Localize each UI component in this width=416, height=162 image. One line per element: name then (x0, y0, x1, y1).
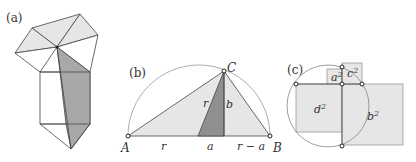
point-bottom (340, 144, 344, 148)
point-center (340, 82, 344, 86)
triangle-abc (128, 71, 270, 136)
point-a (126, 134, 130, 138)
label-A: A (120, 141, 130, 155)
pythagorean-diagram: (a) (b) A B C r r b (0, 0, 416, 162)
label-r-slant: r (203, 97, 209, 110)
label-b: b (226, 98, 233, 111)
label-r-base: r (161, 140, 167, 153)
hub-point (56, 46, 59, 49)
panel-b-label: (b) (129, 66, 146, 80)
panel-c: (c) a2 c2 d2 b2 (287, 63, 403, 148)
panel-a: (a) (6, 11, 98, 149)
point-c (222, 69, 226, 73)
label-B: B (272, 141, 282, 155)
label-a: a (207, 140, 214, 153)
point-b (268, 134, 272, 138)
point-top (340, 65, 344, 69)
label-r-minus-a: r − a (237, 140, 265, 153)
point-left (294, 82, 298, 86)
point-right (360, 82, 364, 86)
panel-b: (b) A B C r r b a r − a (120, 61, 282, 155)
panel-a-label: (a) (6, 11, 23, 25)
label-C: C (227, 61, 236, 75)
